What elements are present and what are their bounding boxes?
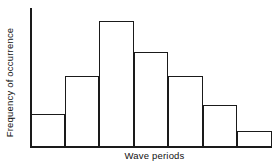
histogram-bar <box>203 105 238 146</box>
histogram-figure: Frequency of occurrence Wave periods <box>0 0 279 165</box>
histogram-bar <box>134 52 169 146</box>
histogram-bar <box>168 76 203 146</box>
histogram-bar <box>237 131 272 146</box>
x-axis-label: Wave periods <box>30 150 279 161</box>
histogram-bar <box>65 76 100 146</box>
y-axis-label: Frequency of occurrence <box>0 0 20 165</box>
histogram-bar <box>99 21 134 146</box>
x-axis-line <box>30 146 272 148</box>
histogram-bar <box>30 114 65 146</box>
